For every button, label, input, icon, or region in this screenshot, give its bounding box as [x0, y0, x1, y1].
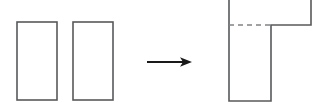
figure-container: [0, 0, 312, 112]
geometry-diagram: [0, 0, 312, 112]
diagram-background: [0, 0, 312, 112]
